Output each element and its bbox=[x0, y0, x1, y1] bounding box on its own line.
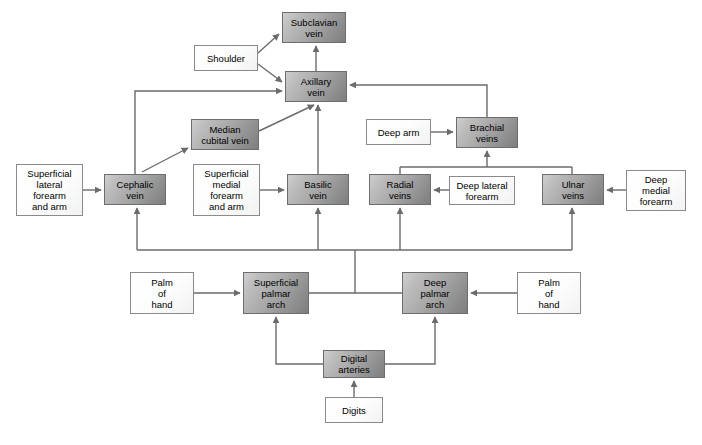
node-label-shoulder: Shoulder bbox=[197, 53, 255, 64]
node-deep-lateral[interactable]: Deep lateral forearm bbox=[449, 176, 515, 205]
node-label-cephalic: Cephalic vein bbox=[107, 179, 163, 201]
node-label-digits: Digits bbox=[328, 405, 380, 416]
node-label-brachial: Brachial veins bbox=[459, 122, 515, 144]
node-deep-medial[interactable]: Deep medial forearm bbox=[626, 170, 686, 211]
figure-caption bbox=[18, 436, 678, 445]
node-label-median-cubital: Median cubital vein bbox=[194, 124, 256, 146]
figure-canvas: Subclavian veinShoulderAxillary veinMedi… bbox=[0, 0, 702, 445]
edge-shoulder-subclavian bbox=[258, 34, 279, 53]
node-label-superficial-lateral: Superficial lateral forearm and arm bbox=[19, 168, 80, 212]
node-label-digital-arteries: Digital arteries bbox=[326, 353, 382, 375]
node-label-superficial-palmar: Superficial palmar arch bbox=[246, 277, 306, 310]
node-label-ulnar: Ulnar veins bbox=[545, 179, 601, 201]
node-cephalic[interactable]: Cephalic vein bbox=[104, 174, 166, 205]
connector-layer bbox=[0, 0, 702, 445]
node-label-basilic: Basilic vein bbox=[290, 179, 346, 201]
node-palm-left[interactable]: Palm of hand bbox=[130, 272, 194, 314]
edge-median-cubital-axillary bbox=[259, 105, 314, 131]
node-label-deep-medial: Deep medial forearm bbox=[629, 174, 683, 207]
node-label-radial: Radial veins bbox=[372, 179, 428, 201]
node-ulnar[interactable]: Ulnar veins bbox=[542, 174, 604, 205]
node-axillary[interactable]: Axillary vein bbox=[285, 71, 347, 102]
edge-digital-deep bbox=[385, 317, 435, 364]
node-superficial-palmar[interactable]: Superficial palmar arch bbox=[243, 272, 309, 314]
node-deep-palmar[interactable]: Deep palmar arch bbox=[402, 272, 468, 314]
node-superficial-medial[interactable]: Superficial medial forearm and arm bbox=[193, 164, 260, 216]
node-digits[interactable]: Digits bbox=[325, 397, 383, 423]
node-shoulder[interactable]: Shoulder bbox=[194, 45, 258, 71]
node-superficial-lateral[interactable]: Superficial lateral forearm and arm bbox=[16, 164, 83, 216]
edge-shoulder-axillary bbox=[258, 64, 282, 82]
edge-cephalic-median-cubital bbox=[142, 148, 188, 172]
node-label-palm-left: Palm of hand bbox=[133, 277, 191, 310]
node-subclavian[interactable]: Subclavian vein bbox=[282, 12, 346, 43]
node-label-axillary: Axillary vein bbox=[288, 76, 344, 98]
node-label-deep-palmar: Deep palmar arch bbox=[405, 277, 465, 310]
node-label-palm-right: Palm of hand bbox=[520, 277, 578, 310]
edge-digital-superficial bbox=[276, 317, 323, 364]
edge-brachial-axillary bbox=[350, 85, 487, 117]
node-radial[interactable]: Radial veins bbox=[369, 174, 431, 205]
node-median-cubital[interactable]: Median cubital vein bbox=[191, 119, 259, 150]
node-label-subclavian: Subclavian vein bbox=[285, 17, 343, 39]
node-label-deep-arm: Deep arm bbox=[369, 127, 428, 138]
node-label-deep-lateral: Deep lateral forearm bbox=[452, 180, 512, 202]
node-brachial[interactable]: Brachial veins bbox=[456, 117, 518, 148]
node-palm-right[interactable]: Palm of hand bbox=[517, 272, 581, 314]
node-deep-arm[interactable]: Deep arm bbox=[366, 119, 431, 145]
node-basilic[interactable]: Basilic vein bbox=[287, 174, 349, 205]
node-digital-arteries[interactable]: Digital arteries bbox=[323, 350, 385, 378]
node-label-superficial-medial: Superficial medial forearm and arm bbox=[196, 168, 257, 212]
